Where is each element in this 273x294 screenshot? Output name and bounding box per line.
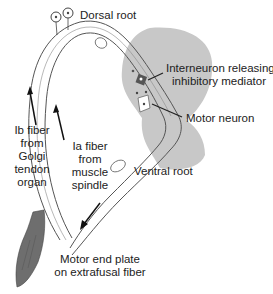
motor-neuron-label: Motor neuron: [186, 112, 254, 125]
ventral-root-label: Ventral root: [134, 165, 193, 178]
muscle: [16, 210, 45, 287]
dorsal-root-label: Dorsal root: [80, 9, 136, 22]
motor-end-plate-label: Motor end plate on extrafusal fiber: [44, 253, 156, 279]
ia-fiber-label: Ia fiber from muscle spindle: [70, 140, 110, 192]
ventral-root-ring: [109, 158, 128, 175]
ib-fiber-label: Ib fiber from Golgi tendon organ: [8, 124, 56, 189]
spinal-cord-gray-matter: [122, 28, 212, 170]
interneuron-label-line1: Interneuron releasing: [166, 62, 273, 75]
interneuron-label-line2: inhibitory mediator: [172, 75, 266, 88]
